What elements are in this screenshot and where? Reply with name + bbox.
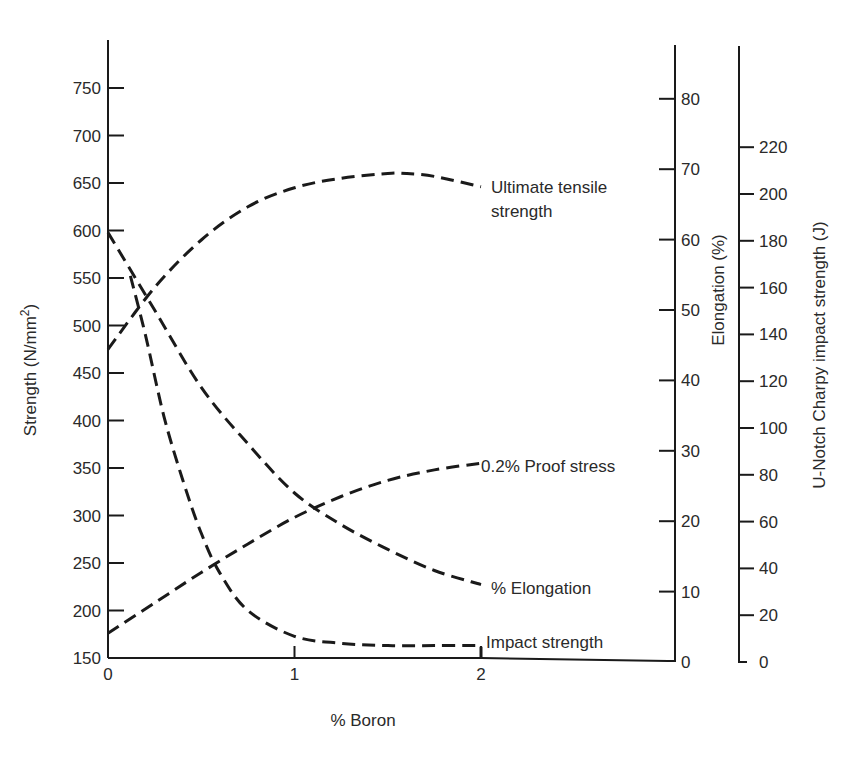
- left-tick-label: 200: [73, 602, 101, 621]
- left-tick-label: 400: [73, 412, 101, 431]
- impact-tick-label: 0: [759, 653, 768, 672]
- elongation-tick-label: 70: [681, 160, 700, 179]
- impact-axis: 020406080100120140160180200220 U-Notch C…: [739, 46, 829, 672]
- impact-tick-label: 140: [759, 325, 787, 344]
- left-tick-label: 250: [73, 554, 101, 573]
- label-impact-strength: Impact strength: [486, 633, 603, 652]
- elongation-axis-title: Elongation (%): [709, 234, 728, 346]
- left-axis-title: Strength (N/mm2): [18, 304, 40, 436]
- x-axis-ticks: 012: [103, 646, 485, 684]
- left-tick-label: 450: [73, 364, 101, 383]
- elongation-tick-label: 10: [681, 583, 700, 602]
- x-axis: 012 % Boron: [103, 646, 675, 730]
- left-tick-label: 650: [73, 174, 101, 193]
- elongation-axis: 01020304050607080 Elongation (%): [659, 45, 728, 672]
- elongation-tick-label: 60: [681, 231, 700, 250]
- label-uts-line1: Ultimate tensile: [491, 178, 607, 197]
- impact-tick-label: 180: [759, 232, 787, 251]
- x-tick-label: 1: [290, 665, 299, 684]
- x-tick-label: 0: [103, 665, 112, 684]
- curves: [108, 173, 481, 658]
- curve-labels: Ultimate tensile strength 0.2% Proof str…: [481, 178, 615, 652]
- impact-tick-label: 200: [759, 185, 787, 204]
- elongation-tick-label: 20: [681, 512, 700, 531]
- curve-elongation: [108, 233, 481, 585]
- elongation-tick-label: 0: [681, 653, 690, 672]
- label-uts-line2: strength: [491, 202, 552, 221]
- impact-axis-ticks: 020406080100120140160180200220: [739, 138, 787, 672]
- x-axis-line: [108, 658, 675, 661]
- boron-properties-chart: 150200250300350400450500550600650700750 …: [0, 0, 868, 758]
- left-tick-label: 350: [73, 459, 101, 478]
- left-tick-label: 600: [73, 222, 101, 241]
- left-axis-ticks: 150200250300350400450500550600650700750: [73, 79, 124, 668]
- left-tick-label: 300: [73, 507, 101, 526]
- left-tick-label: 750: [73, 79, 101, 98]
- left-axis: 150200250300350400450500550600650700750 …: [18, 40, 124, 668]
- impact-tick-label: 160: [759, 279, 787, 298]
- curve-ultimate-tensile-strength: [108, 173, 481, 349]
- impact-tick-label: 80: [759, 466, 778, 485]
- impact-tick-label: 60: [759, 513, 778, 532]
- x-tick-label: 2: [476, 665, 485, 684]
- left-tick-label: 150: [73, 649, 101, 668]
- elongation-tick-label: 30: [681, 442, 700, 461]
- elongation-tick-label: 50: [681, 301, 700, 320]
- left-tick-label: 550: [73, 269, 101, 288]
- label-proof-stress: 0.2% Proof stress: [481, 457, 615, 476]
- left-tick-label: 700: [73, 127, 101, 146]
- label-elongation: % Elongation: [491, 579, 591, 598]
- impact-tick-label: 20: [759, 606, 778, 625]
- elongation-axis-ticks: 01020304050607080: [659, 90, 700, 672]
- curve-proof-stress: [108, 463, 481, 633]
- x-axis-title: % Boron: [330, 711, 395, 730]
- impact-axis-line: [739, 46, 747, 662]
- impact-tick-label: 220: [759, 138, 787, 157]
- impact-tick-label: 120: [759, 372, 787, 391]
- impact-tick-label: 100: [759, 419, 787, 438]
- elongation-tick-label: 40: [681, 371, 700, 390]
- elongation-tick-label: 80: [681, 90, 700, 109]
- impact-axis-title: U-Notch Charpy impact strength (J): [810, 221, 829, 488]
- curve-impact-strength: [130, 276, 481, 658]
- impact-tick-label: 40: [759, 559, 778, 578]
- left-tick-label: 500: [73, 317, 101, 336]
